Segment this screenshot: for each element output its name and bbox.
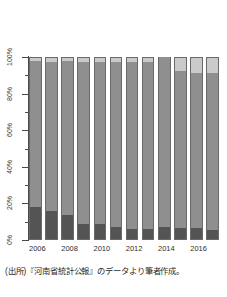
x-axis-tick-label: 2012 [126, 243, 139, 255]
stacked-bar-group [29, 57, 219, 240]
bar-segment-secondary [45, 62, 58, 211]
bar-2008 [61, 57, 74, 240]
y-axis-tick-label-text: 80% [5, 84, 15, 104]
bar-2016 [190, 57, 203, 240]
x-axis-tick-label [206, 243, 219, 255]
x-axis-tick-label-text: 2008 [61, 243, 78, 255]
bar-segment-primary [174, 228, 187, 240]
bar-segment-secondary [77, 62, 90, 224]
bar-segment-primary [142, 229, 155, 240]
y-tick-major [22, 167, 29, 168]
x-axis-tick-label [174, 243, 187, 255]
bar-segment-tertiary [174, 57, 187, 71]
bar-segment-primary [206, 230, 219, 240]
bar-segment-secondary [174, 71, 187, 228]
x-axis-tick-label: 2008 [61, 243, 74, 255]
y-axis-tick-label: 0% [0, 235, 20, 245]
y-axis-tick-label-text: 100% [5, 47, 15, 67]
y-tick-major [22, 240, 29, 241]
bar-2011 [110, 57, 123, 240]
bar-2012 [126, 57, 139, 240]
y-tick-major [22, 94, 29, 95]
bar-segment-primary [190, 228, 203, 240]
bar-segment-secondary [94, 62, 107, 225]
x-axis-tick-label-text: 2006 [29, 243, 46, 255]
bar-segment-tertiary [190, 57, 203, 73]
y-axis-tick-label: 40% [0, 162, 20, 172]
y-axis-tick-label: 80% [0, 89, 20, 99]
x-axis-tick-label: 2010 [94, 243, 107, 255]
bar-2007 [45, 57, 58, 240]
bar-2009 [77, 57, 90, 240]
x-axis-tick-label-text: 2010 [94, 243, 111, 255]
y-axis-tick-label-text: 40% [5, 157, 15, 177]
bar-2017 [206, 57, 219, 240]
x-axis-tick-label [77, 243, 90, 255]
y-axis-tick-label-text: 20% [5, 193, 15, 213]
figure: 0%20%40%60%80%100% 200620082010201220142… [0, 0, 227, 297]
y-tick-major [22, 203, 29, 204]
bar-2006 [29, 57, 42, 240]
x-axis-tick-label: 2006 [29, 243, 42, 255]
bar-segment-primary [126, 229, 139, 240]
y-axis-tick-label-text: 60% [5, 120, 15, 140]
bar-segment-tertiary [206, 57, 219, 73]
bar-segment-primary [77, 224, 90, 240]
bar-segment-secondary [190, 73, 203, 229]
x-axis-tick-label [45, 243, 58, 255]
bar-segment-secondary [206, 73, 219, 229]
x-axis-tick-label-text: 2016 [190, 243, 207, 255]
bar-segment-secondary [110, 62, 123, 227]
y-axis-tick-label: 60% [0, 125, 20, 135]
bar-segment-primary [45, 211, 58, 240]
y-axis-tick-label: 100% [0, 52, 20, 62]
bar-segment-secondary [158, 57, 171, 227]
x-axis-tick-label: 2016 [190, 243, 203, 255]
x-axis-tick-label [110, 243, 123, 255]
x-axis-labels: 200620082010201220142016 [29, 243, 219, 255]
bar-segment-secondary [61, 61, 74, 214]
bar-2010 [94, 57, 107, 240]
bar-segment-primary [110, 227, 123, 240]
bar-segment-primary [158, 227, 171, 240]
chart-plot-area: 0%20%40%60%80%100% 200620082010201220142… [0, 0, 227, 260]
bar-segment-secondary [126, 62, 139, 229]
y-axis-tick-label: 20% [0, 198, 20, 208]
bar-segment-primary [29, 207, 42, 240]
x-axis-tick-label-text: 2014 [158, 243, 175, 255]
x-axis-tick-label: 2014 [158, 243, 171, 255]
y-tick-major [22, 130, 29, 131]
bar-segment-secondary [29, 61, 42, 207]
y-tick-major [22, 57, 29, 58]
bar-segment-primary [61, 215, 74, 240]
bar-segment-primary [94, 224, 107, 240]
x-axis-tick-label [142, 243, 155, 255]
x-axis-tick-label-text: 2012 [126, 243, 143, 255]
source-caption: (出所)『河南省統計公報』のデータより筆者作成。 [5, 265, 225, 277]
y-axis-tick-label-text: 0% [5, 230, 15, 250]
bar-2014 [158, 57, 171, 240]
bar-segment-secondary [142, 62, 155, 229]
bar-2015 [174, 57, 187, 240]
bar-2013 [142, 57, 155, 240]
